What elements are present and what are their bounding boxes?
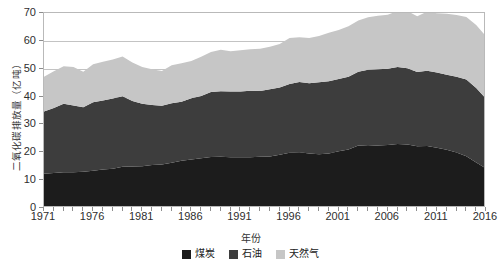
x-tick-label: 2011 — [416, 211, 456, 222]
y-tick-label: 50 — [2, 63, 36, 74]
legend-swatch-icon — [229, 250, 238, 259]
legend-label: 石油 — [242, 249, 262, 259]
x-tick-label: 1996 — [269, 211, 309, 222]
legend-swatch-icon — [276, 250, 285, 259]
x-tick-label: 2001 — [318, 211, 358, 222]
y-tick-label: 10 — [2, 174, 36, 185]
y-tick-label: 20 — [2, 146, 36, 157]
legend-item[interactable]: 天然气 — [276, 249, 319, 259]
y-tick-label: 60 — [2, 35, 36, 46]
x-tick-label: 1981 — [121, 211, 161, 222]
x-tick-label: 1971 — [23, 211, 63, 222]
x-axis-title: 年份 — [0, 230, 501, 245]
stacked-area-series — [44, 13, 485, 207]
plot-area — [43, 12, 485, 207]
x-tick-label: 2006 — [367, 211, 407, 222]
y-tick-label: 40 — [2, 91, 36, 102]
legend-label: 煤炭 — [195, 249, 215, 259]
x-tick-label: 2016 — [465, 211, 501, 222]
legend-item[interactable]: 石油 — [229, 249, 262, 259]
x-tick-label: 1991 — [219, 211, 259, 222]
x-tick-label: 1976 — [72, 211, 112, 222]
y-tick-label: 30 — [2, 118, 36, 129]
chart-legend: 煤炭石油天然气 — [0, 249, 501, 259]
legend-swatch-icon — [182, 250, 191, 259]
x-tick-label: 1986 — [170, 211, 210, 222]
co2-emissions-area-chart: 二氧化碳排放量（亿吨） 010203040506070 197119761981… — [0, 0, 501, 269]
legend-label: 天然气 — [289, 249, 319, 259]
legend-item[interactable]: 煤炭 — [182, 249, 215, 259]
y-tick-label: 70 — [2, 7, 36, 18]
